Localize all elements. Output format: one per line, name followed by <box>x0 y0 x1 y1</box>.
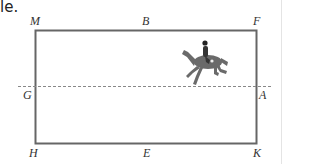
horse-and-rider-icon <box>182 40 228 85</box>
letter-e: E <box>143 146 150 161</box>
letter-h: H <box>29 146 38 161</box>
letter-a: A <box>259 88 266 103</box>
letter-b: B <box>142 14 149 29</box>
page-edge-divider <box>281 0 282 164</box>
letter-f: F <box>253 14 260 29</box>
letter-m: M <box>30 14 40 29</box>
letter-k: K <box>253 146 261 161</box>
letter-g: G <box>23 88 32 103</box>
